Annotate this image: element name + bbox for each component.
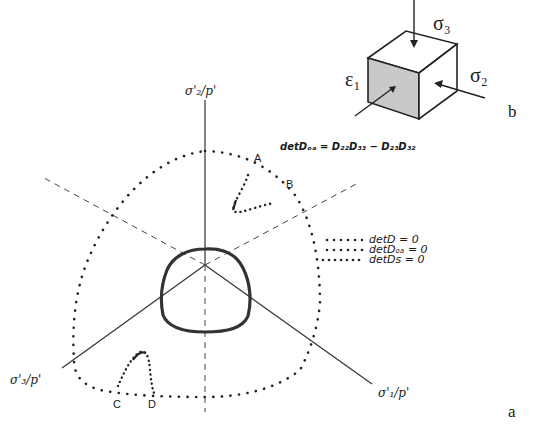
panel-b-label: b xyxy=(508,102,517,122)
sigma3-axis-label: σ'₃/p' xyxy=(10,373,41,387)
sigma1-axis-label: σ'₁/p' xyxy=(378,386,409,400)
legend-detds: detDs = 0 xyxy=(369,253,424,266)
det-doa-equation: detDₒₐ = D₂₂D₃₃ − D₂₃D₃₂ xyxy=(280,141,415,152)
point-b-label: B xyxy=(286,178,293,190)
lobe-ab xyxy=(233,175,274,212)
sigma3-label: σ₃ xyxy=(433,12,451,35)
panel-a-label: a xyxy=(508,402,516,422)
legend-markers xyxy=(322,239,364,262)
sigma3-axis xyxy=(62,265,205,368)
lobe-cd xyxy=(118,352,154,393)
inner-yield-surface xyxy=(161,249,250,332)
point-c-label: C xyxy=(113,398,121,410)
sigma1-axis xyxy=(205,265,372,384)
point-d-label: D xyxy=(148,398,156,410)
sigma2-axis-label: σ'₂/p' xyxy=(185,84,216,98)
epsilon1-label: ε₁ xyxy=(345,68,360,91)
outer-failure-surface xyxy=(73,151,320,397)
stress-cube xyxy=(355,0,485,119)
point-a-label: A xyxy=(254,152,261,164)
pi-plane-diagram xyxy=(0,0,533,429)
sigma2-label: σ₂ xyxy=(470,64,488,87)
dashed-axes xyxy=(44,178,360,412)
